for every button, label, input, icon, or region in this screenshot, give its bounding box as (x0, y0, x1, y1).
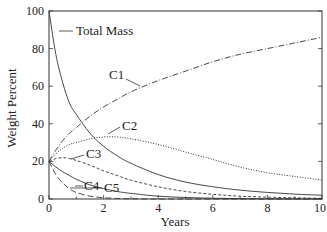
xtick-10: 10 (314, 201, 326, 215)
label-c1: C1 (109, 67, 124, 82)
chart: 0 20 40 60 80 100 0 2 4 6 8 10 Years Wei… (0, 0, 327, 232)
x-axis-label: Years (160, 214, 189, 229)
xtick-6: 6 (210, 201, 216, 215)
y-axis-label: Weight Percent (4, 68, 19, 148)
ytick-0: 0 (38, 192, 44, 206)
xtick-4: 4 (155, 201, 161, 215)
curves (49, 11, 322, 199)
axis-ticks (49, 11, 322, 199)
label-c5: C5 (104, 180, 119, 195)
ytick-100: 100 (26, 4, 44, 18)
c3-leader (71, 155, 84, 159)
c2-leader (108, 127, 120, 134)
ytick-60: 60 (32, 79, 44, 93)
label-c2: C2 (122, 118, 137, 133)
label-c3: C3 (86, 146, 101, 161)
ytick-80: 80 (32, 42, 44, 56)
label-c4: C4 (84, 178, 100, 193)
xtick-0: 0 (46, 201, 52, 215)
curve-c1 (49, 37, 322, 161)
c1-leader (126, 79, 140, 86)
curve-total-mass (49, 11, 322, 195)
plot-frame (49, 11, 322, 199)
label-total-mass: Total Mass (76, 23, 133, 38)
ytick-40: 40 (32, 117, 44, 131)
xtick-8: 8 (264, 201, 270, 215)
ytick-20: 20 (32, 154, 44, 168)
xtick-2: 2 (101, 201, 107, 215)
